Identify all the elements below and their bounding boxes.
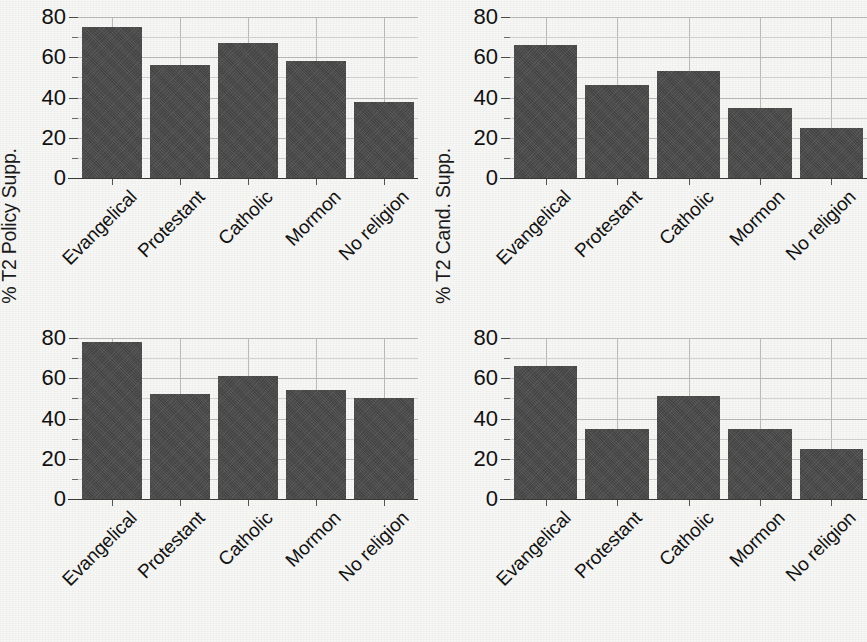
gridline-major — [510, 338, 867, 339]
bar — [218, 376, 278, 499]
y-axis-tick-label: 60 — [42, 367, 66, 389]
x-axis-line — [500, 178, 867, 179]
y-axis-minor-tick — [504, 398, 510, 399]
y-axis-minor-tick — [504, 77, 510, 78]
y-axis-minor-tick — [72, 158, 78, 159]
x-axis-tick — [384, 499, 385, 506]
y-axis-tick-label: 20 — [474, 448, 498, 470]
y-axis-tick — [501, 138, 510, 139]
x-axis-category-label: No religion — [335, 507, 414, 586]
x-axis-category-label: Protestant — [133, 186, 209, 262]
plot-area: 020406080 — [78, 17, 418, 178]
y-axis-tick-label: 80 — [474, 327, 498, 349]
plot-area: 020406080 — [510, 338, 867, 499]
x-axis-tick — [831, 499, 832, 506]
y-axis-minor-tick — [504, 37, 510, 38]
x-axis-category-label: No religion — [782, 507, 861, 586]
y-axis-minor-tick — [72, 358, 78, 359]
y-axis-tick — [69, 138, 78, 139]
y-axis-tick-label: 20 — [42, 448, 66, 470]
y-axis-minor-tick — [72, 439, 78, 440]
y-axis-tick-label: 20 — [42, 127, 66, 149]
gridline-major — [78, 338, 418, 339]
y-axis-tick-label: 80 — [42, 6, 66, 28]
x-axis-tick — [112, 178, 113, 185]
x-axis-category-label: No religion — [335, 186, 414, 265]
bar — [82, 27, 142, 178]
y-axis-tick — [501, 98, 510, 99]
bar — [218, 43, 278, 178]
x-axis-tick — [384, 178, 385, 185]
bar — [286, 61, 346, 178]
bar — [585, 85, 648, 178]
x-axis-category-label: Evangelical — [492, 186, 575, 269]
x-axis-category-label: Mormon — [281, 186, 345, 250]
x-axis-category-labels: EvangelicalProtestantCatholicMormonNo re… — [510, 186, 867, 316]
bar — [800, 128, 863, 178]
x-axis-category-labels: EvangelicalProtestantCatholicMormonNo re… — [78, 186, 418, 316]
bar — [514, 45, 577, 178]
x-axis-tick — [617, 178, 618, 185]
bar — [728, 429, 791, 499]
y-axis-minor-tick — [504, 118, 510, 119]
y-axis-minor-tick — [72, 37, 78, 38]
y-axis-tick-label: 60 — [474, 46, 498, 68]
x-axis-tick — [831, 178, 832, 185]
x-axis-category-label: Mormon — [725, 507, 789, 571]
y-axis-tick — [501, 338, 510, 339]
x-axis-tick — [248, 499, 249, 506]
x-axis-category-label: No religion — [782, 186, 861, 265]
y-axis-tick-label: 40 — [42, 408, 66, 430]
gridline-minor — [510, 37, 867, 38]
y-axis-minor-tick — [72, 77, 78, 78]
bar — [585, 429, 648, 499]
plot-area: 020406080 — [78, 338, 418, 499]
x-axis-tick — [546, 499, 547, 506]
x-axis-tick — [760, 499, 761, 506]
gridline-major — [510, 17, 867, 18]
x-axis-tick — [689, 499, 690, 506]
y-axis-title: % T2 Cand. Supp. — [432, 131, 458, 321]
x-axis-category-label: Protestant — [571, 507, 647, 583]
bar — [150, 65, 210, 178]
x-axis-category-label: Catholic — [655, 507, 719, 571]
bar — [354, 102, 414, 178]
x-axis-tick — [316, 178, 317, 185]
y-axis-tick-label: 60 — [474, 367, 498, 389]
x-axis-line — [68, 178, 418, 179]
x-axis-tick — [112, 499, 113, 506]
y-axis-tick-label: 40 — [42, 87, 66, 109]
y-axis-minor-tick — [504, 479, 510, 480]
bar — [728, 108, 791, 178]
y-axis-tick — [69, 57, 78, 58]
y-axis-tick — [69, 378, 78, 379]
gridline-major — [78, 17, 418, 18]
y-axis-tick — [69, 419, 78, 420]
y-axis-title: % T2 Policy Supp. — [0, 131, 24, 321]
x-axis-category-label: Protestant — [571, 186, 647, 262]
y-axis-tick-label: 20 — [474, 127, 498, 149]
y-axis-minor-tick — [72, 118, 78, 119]
y-axis-minor-tick — [72, 479, 78, 480]
bar — [514, 366, 577, 499]
y-axis-tick — [501, 459, 510, 460]
x-axis-category-label: Catholic — [214, 507, 278, 571]
chart-panel-t2-policy: % T2 Policy Supp. 020406080 EvangelicalP… — [0, 321, 434, 642]
x-axis-line — [500, 499, 867, 500]
x-axis-category-label: Evangelical — [58, 507, 141, 590]
x-axis-tick — [617, 499, 618, 506]
bar — [657, 396, 720, 499]
y-axis-tick-label: 40 — [474, 87, 498, 109]
x-axis-category-label: Mormon — [281, 507, 345, 571]
y-axis-tick-label: 0 — [486, 488, 498, 510]
y-axis-tick — [69, 338, 78, 339]
gridline-minor — [510, 358, 867, 359]
x-axis-tick — [180, 499, 181, 506]
x-axis-tick — [316, 499, 317, 506]
x-axis-category-label: Protestant — [133, 507, 209, 583]
y-axis-tick-label: 0 — [486, 167, 498, 189]
x-axis-category-label: Mormon — [725, 186, 789, 250]
x-axis-category-labels: EvangelicalProtestantCatholicMormonNo re… — [510, 507, 867, 637]
x-axis-category-labels: EvangelicalProtestantCatholicMormonNo re… — [78, 507, 418, 637]
y-axis-minor-tick — [504, 358, 510, 359]
